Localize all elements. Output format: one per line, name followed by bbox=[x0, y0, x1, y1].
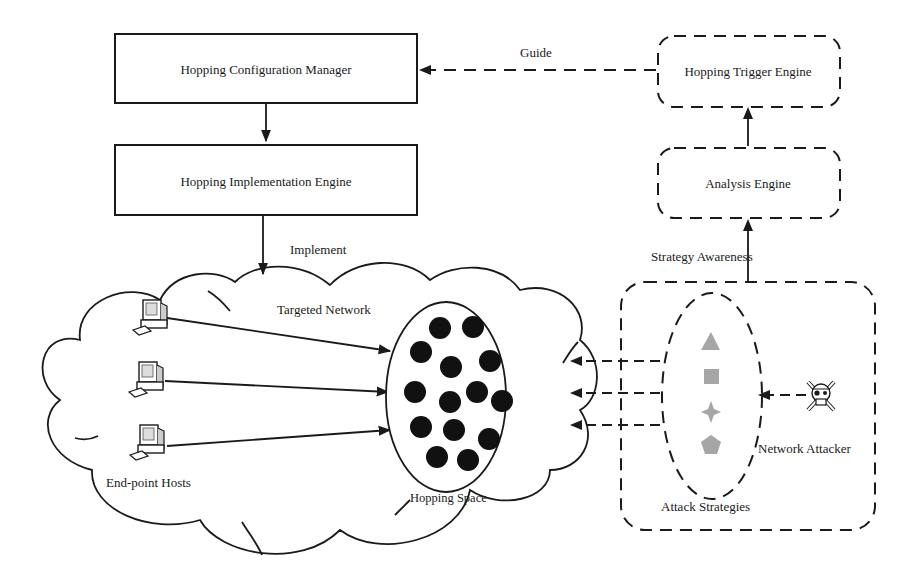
skull-crossbones-icon bbox=[808, 382, 834, 410]
hopping-space-label: Hopping Space bbox=[410, 491, 487, 505]
hopping-implementation-engine-box: Hopping Implementation Engine bbox=[115, 145, 417, 215]
hopping-trigger-engine-box: Hopping Trigger Engine bbox=[658, 36, 840, 107]
analysis-to-trigger-arrowhead bbox=[743, 107, 753, 119]
desktop-computer-icon bbox=[130, 425, 164, 460]
hopping-configuration-manager-box: Hopping Configuration Manager bbox=[115, 34, 417, 103]
host-2 bbox=[129, 362, 163, 397]
host-3 bbox=[130, 425, 164, 460]
triangle-strategy-icon bbox=[701, 332, 720, 350]
analysis-engine-label: Analysis Engine bbox=[705, 176, 791, 191]
hopping-trigger-engine-label: Hopping Trigger Engine bbox=[684, 64, 811, 79]
attack-arrows bbox=[570, 356, 660, 430]
hopping-space bbox=[386, 302, 513, 492]
implement-label: Implement bbox=[290, 242, 347, 257]
host-1-arrow bbox=[167, 318, 390, 351]
architecture-diagram: Hopping Configuration Manager Hopping Im… bbox=[0, 0, 922, 583]
hopping-implementation-engine-label: Hopping Implementation Engine bbox=[180, 174, 351, 189]
host-1 bbox=[133, 300, 167, 335]
strategy-awareness-arrowhead bbox=[743, 219, 753, 231]
host-3-arrow bbox=[167, 430, 390, 446]
attacker-arrowhead bbox=[758, 390, 770, 400]
attack-strategies-group bbox=[662, 293, 762, 499]
guide-arrowhead bbox=[419, 65, 431, 75]
desktop-computer-icon bbox=[129, 362, 163, 397]
end-point-hosts-label: End-point Hosts bbox=[106, 475, 191, 490]
hopping-configuration-manager-label: Hopping Configuration Manager bbox=[180, 62, 352, 77]
strategy-awareness-label: Strategy Awareness bbox=[651, 249, 753, 264]
network-attacker-label: Network Attacker bbox=[758, 441, 851, 456]
analysis-engine-box: Analysis Engine bbox=[658, 148, 840, 218]
star-strategy-icon bbox=[701, 401, 721, 423]
desktop-computer-icon bbox=[133, 300, 167, 335]
targeted-network-label: Targeted Network bbox=[277, 302, 371, 317]
pentagon-strategy-icon bbox=[701, 435, 721, 454]
square-strategy-icon bbox=[704, 369, 719, 384]
attacker-region bbox=[621, 282, 875, 530]
guide-label: Guide bbox=[520, 45, 552, 60]
attack-strategies-label: Attack Strategies bbox=[661, 499, 750, 514]
host-2-arrow bbox=[165, 381, 388, 392]
